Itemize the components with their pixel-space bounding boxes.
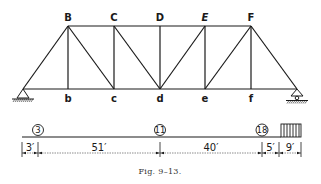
node-label-C: C (110, 12, 117, 23)
dimension-label-9ft: 9′ (286, 142, 295, 153)
node-label-b: b (64, 93, 71, 104)
figure-caption: Fig. 9–13. (138, 167, 181, 176)
pin-support-icon (12, 89, 34, 102)
node-label-d: d (156, 93, 163, 104)
end-post-right (251, 26, 297, 89)
node-label-D: D (156, 12, 164, 23)
load-value-3: 3 (35, 125, 40, 135)
load-value-11: 11 (155, 125, 166, 135)
truss (23, 26, 297, 89)
node-label-c: c (111, 93, 117, 104)
node-label-E: E (202, 12, 209, 23)
figure-diagram: B C D E F b c d e f (0, 0, 321, 184)
roller-support-icon (286, 89, 308, 104)
load-value-18: 18 (257, 125, 268, 135)
dimension-label-3ft: 3′ (26, 142, 35, 153)
dimension-arrows (22, 152, 301, 154)
end-post-left (23, 26, 68, 89)
node-label-f: f (249, 93, 254, 104)
node-label-B: B (64, 12, 72, 23)
node-label-F: F (248, 12, 255, 23)
node-label-e: e (202, 93, 209, 104)
diagonal-Cd (114, 26, 160, 89)
dimension-ticks (22, 142, 301, 157)
dimension-label-40ft: 40′ (204, 142, 220, 153)
diagonal-Bc (68, 26, 114, 89)
diagonal-eF (205, 26, 251, 89)
dimension-label-5ft: 5′ (266, 142, 275, 153)
uniform-load-icon (281, 124, 301, 137)
diagonal-dE (160, 26, 205, 89)
dimension-label-51ft: 51′ (92, 142, 108, 153)
